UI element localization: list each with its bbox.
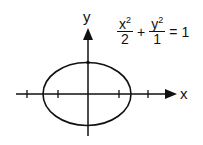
fraction-x: x2 2	[117, 17, 133, 46]
equation-rhs: 1	[181, 24, 189, 40]
equals-sign: =	[169, 24, 177, 40]
ellipse-equation: x2 2 + y2 1 = 1	[117, 17, 189, 46]
x-axis-arrow-icon	[165, 89, 177, 99]
y-axis-label: y	[83, 8, 91, 25]
plus-sign: +	[137, 24, 145, 40]
vertex-point	[86, 61, 90, 65]
fraction-y: y2 1	[149, 17, 165, 46]
y-axis-arrow-icon	[83, 28, 93, 40]
x-axis-label: x	[180, 85, 188, 102]
